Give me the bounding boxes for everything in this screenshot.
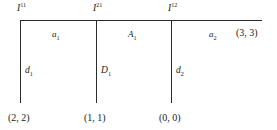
branch-label-d1: d1 [25,66,33,76]
segment-label-a1-sub: 1 [57,34,60,41]
node-label-i11: I11 [17,4,26,14]
branch-label-D1-sub: 1 [108,70,111,77]
coordinate-right-end: (3, 3) [236,28,258,38]
node-label-i12: I12 [168,4,177,14]
vertical-branch-1 [20,20,21,103]
node-label-i21: I21 [93,4,102,14]
segment-label-A1: A1 [128,30,137,39]
node-label-i11-sup: 11 [20,1,26,8]
node-label-i12-sup: 12 [171,1,177,8]
horizontal-axis-line [20,20,262,21]
diagram-canvas: I11 I21 I12 a1 A1 a2 (3, 3) d1 D1 d2 (2,… [0,0,277,130]
segment-label-a2: a2 [209,30,217,39]
coordinate-leaf-3: (0, 0) [159,113,181,123]
segment-label-A1-sub: 1 [134,34,137,41]
branch-label-d2-sub: 2 [181,70,184,77]
node-label-i21-sup: 21 [96,1,102,8]
segment-label-a2-sub: 2 [214,34,217,41]
coordinate-leaf-1: (2, 2) [8,113,30,123]
coordinate-leaf-2: (1, 1) [84,113,106,123]
vertical-branch-3 [171,20,172,103]
branch-label-d2: d2 [176,66,184,76]
vertical-branch-2 [96,20,97,103]
segment-label-a1: a1 [52,30,60,39]
branch-label-D1-base: D [101,65,108,75]
branch-label-d1-sub: 1 [30,70,33,77]
branch-label-D1: D1 [101,66,111,76]
